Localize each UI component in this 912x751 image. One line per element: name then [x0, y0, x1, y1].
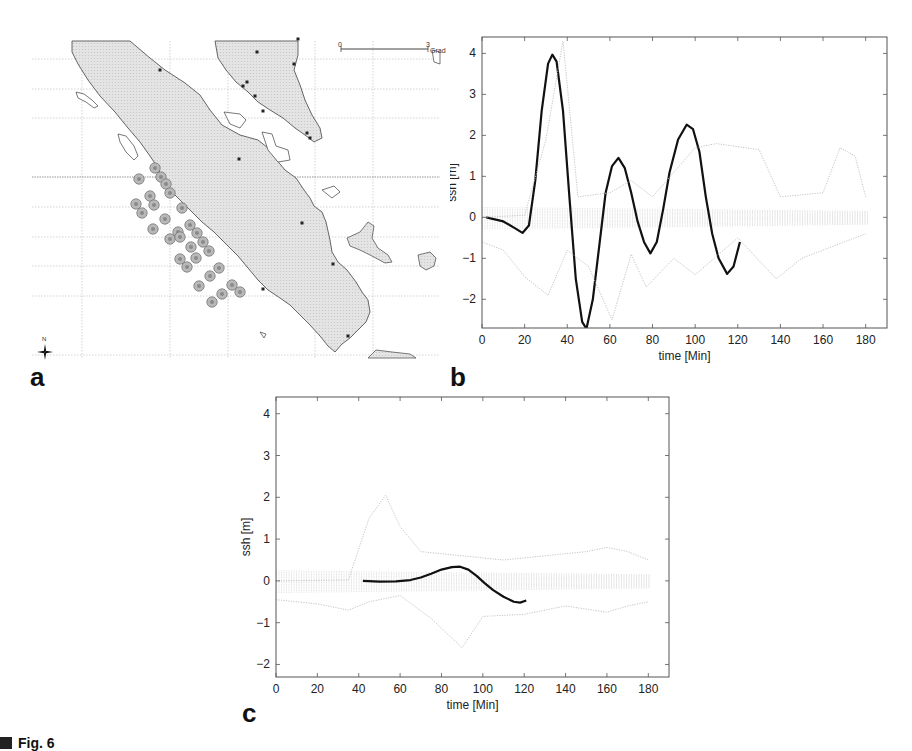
scale-bar: 0 3 Grad [338, 41, 446, 54]
x-tick-label: 140 [556, 682, 576, 696]
ssh-timeseries-chart-c: 020406080100120140160180−2−101234time [M… [220, 380, 690, 740]
x-axis-label: time [Min] [658, 349, 710, 363]
x-tick-label: 20 [518, 333, 532, 347]
grey-series-line [482, 234, 866, 320]
x-axis-label: time [Min] [446, 698, 498, 712]
city-marker [159, 69, 162, 72]
island-simeulue [76, 92, 98, 108]
city-marker [301, 222, 304, 225]
x-tick-label: 0 [273, 682, 280, 696]
panel-label-a: a [30, 364, 44, 390]
highlighted-series-line [486, 55, 740, 329]
city-marker [347, 335, 350, 338]
city-marker [262, 110, 265, 113]
y-axis-label: ssh [m] [450, 163, 459, 202]
y-tick-label: −1 [256, 616, 270, 630]
compass-label: N [42, 336, 46, 342]
scale-bar-start: 0 [338, 41, 342, 48]
city-marker [309, 137, 312, 140]
y-tick-label: 3 [263, 449, 270, 463]
y-tick-label: 2 [469, 128, 476, 142]
city-marker [256, 51, 259, 54]
figure-caption: Fig. 6 [0, 735, 55, 751]
y-tick-label: 0 [263, 574, 270, 588]
city-marker [246, 81, 249, 84]
x-tick-label: 180 [638, 682, 658, 696]
x-tick-label: 0 [479, 333, 486, 347]
y-tick-label: 4 [263, 407, 270, 421]
city-marker [254, 95, 257, 98]
x-tick-label: 80 [646, 333, 660, 347]
x-tick-label: 120 [514, 682, 534, 696]
island-lingga [322, 186, 340, 198]
city-marker [238, 158, 241, 161]
city-marker [293, 63, 296, 66]
city-marker [262, 288, 265, 291]
map-svg: 0 3 Grad N [0, 0, 450, 390]
city-marker [306, 132, 309, 135]
landmass-sumatra [72, 41, 370, 352]
island-small-s [260, 332, 266, 338]
y-tick-label: 1 [263, 532, 270, 546]
ssh-timeseries-chart-b: 020406080100120140160180−2−101234time [M… [450, 0, 912, 390]
island-riau [224, 112, 246, 128]
x-tick-label: 40 [561, 333, 575, 347]
city-marker [297, 38, 300, 41]
island-bangka [347, 222, 392, 263]
y-axis-label: ssh [m] [239, 518, 253, 557]
x-tick-label: 120 [728, 333, 748, 347]
plot-area [482, 41, 868, 329]
x-tick-label: 80 [435, 682, 449, 696]
city-marker [332, 263, 335, 266]
island-nias [118, 134, 138, 160]
y-tick-label: 2 [263, 490, 270, 504]
chart-panel-b: 020406080100120140160180−2−101234time [M… [450, 0, 912, 390]
plot-frame [482, 37, 887, 328]
x-tick-label: 20 [311, 682, 325, 696]
x-tick-label: 100 [473, 682, 493, 696]
x-tick-label: 40 [352, 682, 366, 696]
x-tick-label: 180 [856, 333, 876, 347]
y-tick-label: −2 [462, 292, 476, 306]
scale-bar-unit: Grad [430, 47, 446, 54]
island-belitung [418, 252, 436, 270]
x-tick-label: 160 [597, 682, 617, 696]
plot-area [276, 495, 650, 648]
x-tick-label: 140 [770, 333, 790, 347]
y-tick-label: −2 [256, 657, 270, 671]
y-tick-label: −1 [462, 251, 476, 265]
grey-series-line [276, 596, 648, 648]
north-compass-icon: N [37, 336, 53, 360]
x-tick-label: 60 [393, 682, 407, 696]
plot-frame [276, 397, 669, 677]
caption-text: Fig. 6 [18, 735, 55, 751]
x-tick-label: 160 [813, 333, 833, 347]
city-marker [242, 85, 245, 88]
chart-panel-c: 020406080100120140160180−2−101234time [M… [220, 380, 690, 740]
x-tick-label: 100 [685, 333, 705, 347]
x-tick-label: 60 [603, 333, 617, 347]
y-tick-label: 0 [469, 210, 476, 224]
island-java-tip [368, 350, 416, 358]
caption-marker-icon [0, 737, 12, 749]
map-panel: 0 3 Grad N a [0, 0, 450, 390]
y-tick-label: 1 [469, 169, 476, 183]
y-tick-label: 3 [469, 87, 476, 101]
landmass-malay-peninsula [215, 41, 322, 142]
y-tick-label: 4 [469, 46, 476, 60]
panel-label-c: c [242, 700, 256, 726]
